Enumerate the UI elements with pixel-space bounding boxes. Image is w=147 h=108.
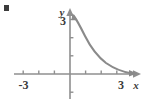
x-axis-tick-label-3: 3 <box>118 78 124 92</box>
exponential-decay-curve <box>74 16 132 74</box>
x-axis-label: x <box>132 79 139 91</box>
figure-container: y 3 -3 3 x <box>0 0 147 108</box>
x-axis-tick-label-neg3: -3 <box>19 78 29 92</box>
curve-start-arrow-icon <box>72 13 78 20</box>
corner-mark-icon <box>4 5 9 11</box>
y-axis-tick-label-3: 3 <box>60 14 66 28</box>
coordinate-graph: y 3 -3 3 x <box>0 0 147 108</box>
